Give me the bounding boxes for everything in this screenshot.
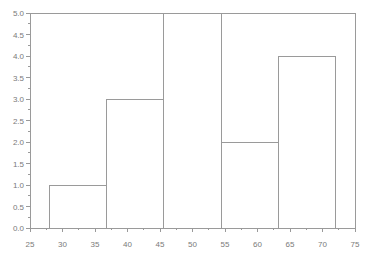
y-axis-tick-label: 1.0 bbox=[13, 181, 25, 190]
histogram-figure: 25303540455055606570750.00.51.01.52.02.5… bbox=[0, 0, 370, 260]
histogram-bar bbox=[164, 13, 221, 228]
x-axis-tick-label: 25 bbox=[26, 240, 35, 249]
x-axis-tick-label: 40 bbox=[123, 240, 132, 249]
x-axis-tick-label: 35 bbox=[91, 240, 100, 249]
histogram-canvas: 25303540455055606570750.00.51.01.52.02.5… bbox=[0, 0, 370, 260]
y-axis-tick-label: 3.0 bbox=[13, 95, 25, 104]
x-axis-tick-label: 60 bbox=[253, 240, 262, 249]
x-axis-tick-label: 55 bbox=[221, 240, 230, 249]
y-axis-tick-label: 3.5 bbox=[13, 74, 25, 83]
y-axis-tick-label: 1.5 bbox=[13, 160, 25, 169]
histogram-bar bbox=[107, 99, 164, 228]
histogram-bar bbox=[50, 185, 107, 228]
y-axis-tick-label: 2.0 bbox=[13, 138, 25, 147]
histogram-bar bbox=[278, 56, 335, 228]
y-axis-tick-label: 4.5 bbox=[13, 31, 25, 40]
y-axis-tick-label: 4.0 bbox=[13, 52, 25, 61]
x-axis-tick-label: 75 bbox=[351, 240, 360, 249]
x-axis-tick-label: 45 bbox=[156, 240, 165, 249]
y-axis-tick-label: 0.5 bbox=[13, 203, 25, 212]
x-axis-tick-label: 65 bbox=[286, 240, 295, 249]
x-axis-tick-label: 70 bbox=[318, 240, 327, 249]
x-axis-tick-label: 30 bbox=[58, 240, 67, 249]
y-axis-tick-label: 2.5 bbox=[13, 117, 25, 126]
y-axis-tick-label: 0.0 bbox=[13, 224, 25, 233]
y-axis-tick-label: 5.0 bbox=[13, 9, 25, 18]
x-axis-tick-label: 50 bbox=[188, 240, 197, 249]
histogram-bar bbox=[221, 142, 278, 228]
